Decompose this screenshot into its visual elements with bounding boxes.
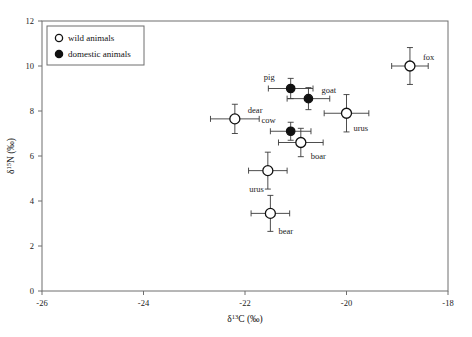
x-tick-label: -20 <box>341 298 352 308</box>
scatter-plot-figure: -26-24-22-20-18024681012 foxpiggoatdearu… <box>0 0 472 337</box>
plot-canvas: -26-24-22-20-18024681012 foxpiggoatdearu… <box>0 0 472 337</box>
point-label: urus <box>249 184 264 194</box>
data-point: urus <box>324 95 369 134</box>
marker-wild <box>263 166 273 176</box>
marker-domestic <box>286 84 294 92</box>
y-axis-title: δ15N (‰) <box>5 138 17 174</box>
marker-domestic <box>304 94 312 102</box>
data-point: dear <box>210 104 262 133</box>
point-label: urus <box>354 123 369 133</box>
data-point: fox <box>392 48 435 85</box>
data-points-layer: foxpiggoatdearuruscowboarurusbear <box>210 48 435 237</box>
marker-wild <box>265 208 275 218</box>
axis-titles: δ13C (‰)δ15N (‰) <box>5 138 263 325</box>
point-label: dear <box>248 105 263 115</box>
data-point: bear <box>251 195 293 236</box>
legend-marker-wild <box>55 34 62 41</box>
x-tick-label: -22 <box>239 298 250 308</box>
point-label: cow <box>262 115 277 125</box>
y-tick-label: 6 <box>30 151 34 161</box>
legend-label: domestic animals <box>68 49 131 59</box>
y-tick-label: 8 <box>30 106 34 116</box>
marker-wild <box>230 114 240 124</box>
y-tick-label: 10 <box>26 61 35 71</box>
data-point: cow <box>262 115 311 140</box>
marker-wild <box>296 138 306 148</box>
point-label: pig <box>264 72 276 82</box>
y-tick-label: 12 <box>26 16 35 26</box>
x-tick-label: -18 <box>442 298 453 308</box>
data-point: boar <box>278 128 326 160</box>
marker-wild <box>342 108 352 118</box>
y-tick-label: 2 <box>30 241 34 251</box>
data-point: pig <box>264 72 313 99</box>
point-label: bear <box>278 226 293 236</box>
point-label: goat <box>321 85 336 95</box>
x-tick-label: -24 <box>138 298 150 308</box>
x-tick-label: -26 <box>36 298 47 308</box>
legend-marker-domestic <box>55 50 62 57</box>
point-label: boar <box>311 151 326 161</box>
marker-wild <box>405 61 415 71</box>
legend: wild animalsdomestic animals <box>47 26 144 65</box>
y-tick-label: 4 <box>30 196 35 206</box>
x-axis-title: δ13C (‰) <box>227 313 263 325</box>
marker-domestic <box>286 127 294 135</box>
y-tick-label: 0 <box>30 286 34 296</box>
data-point: urus <box>249 152 288 193</box>
point-label: fox <box>423 52 435 62</box>
legend-label: wild animals <box>68 33 115 43</box>
